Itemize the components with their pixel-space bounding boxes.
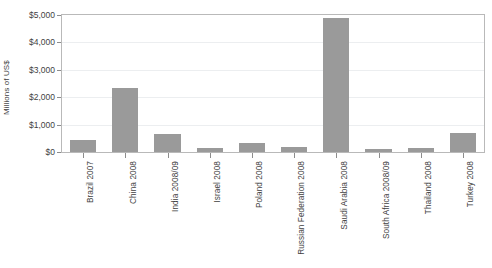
bar (450, 133, 476, 152)
y-tick-label: $2,000 (29, 92, 55, 102)
y-tick-mark (57, 15, 61, 16)
bar-chart-figure: Millions of US$ $0$1,000$2,000$3,000$4,0… (0, 0, 492, 268)
x-tick-label: Turkey 2008 (466, 161, 475, 207)
bar (197, 148, 223, 152)
y-axis-label: Millions of US$ (2, 48, 16, 128)
x-tick-mark (83, 153, 84, 158)
bar (154, 134, 180, 152)
x-tick-label: Thailand 2008 (424, 161, 433, 214)
x-tick-mark (379, 153, 380, 158)
bar (323, 18, 349, 152)
x-tick-label: Poland 2008 (255, 161, 264, 208)
bottom-clipped-caption (0, 258, 492, 268)
x-tick-mark (421, 153, 422, 158)
top-clipped-caption (0, 0, 492, 8)
x-tick-label: South Africa 2008/09 (382, 161, 391, 239)
bar (365, 149, 391, 152)
bar (70, 140, 96, 152)
x-tick-label: Brazil 2007 (86, 161, 95, 203)
y-tick-label: $3,000 (29, 65, 55, 75)
x-tick-mark (336, 153, 337, 158)
bar (239, 143, 265, 152)
x-tick-label: Israel 2008 (213, 161, 222, 203)
x-tick-label: Russian Federation 2008 (297, 161, 306, 255)
y-tick-mark (57, 125, 61, 126)
plot-area (61, 14, 485, 153)
y-tick-label: $1,000 (29, 120, 55, 130)
y-tick-mark (57, 42, 61, 43)
y-tick-label: $4,000 (29, 37, 55, 47)
y-tick-mark (57, 70, 61, 71)
y-tick-mark (57, 97, 61, 98)
x-tick-mark (168, 153, 169, 158)
x-tick-label: Saudi Arabia 2008 (340, 161, 349, 230)
y-tick-label: $5,000 (29, 10, 55, 20)
y-tick-mark (57, 152, 61, 153)
x-tick-mark (252, 153, 253, 158)
bar (112, 88, 138, 152)
x-tick-mark (210, 153, 211, 158)
x-tick-mark (125, 153, 126, 158)
y-tick-label: $0 (46, 147, 55, 157)
x-tick-label: India 2008/09 (171, 161, 180, 212)
bar (408, 148, 434, 152)
x-tick-mark (294, 153, 295, 158)
bars-group (62, 15, 484, 152)
x-tick-label: China 2008 (129, 161, 138, 204)
x-tick-mark (463, 153, 464, 158)
bar (281, 147, 307, 152)
